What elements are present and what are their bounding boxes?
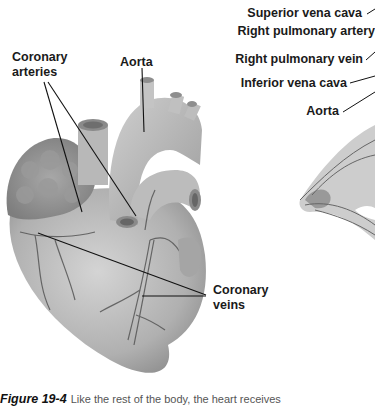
label-inferior-vena-cava: Inferior vena cava	[241, 76, 347, 91]
heart-anterior-view	[7, 77, 206, 373]
figure-caption: Figure 19-4Like the rest of the body, th…	[0, 392, 281, 406]
label-superior-vena-cava: Superior vena cava	[247, 6, 362, 21]
label-line: Coronary	[12, 50, 68, 65]
label-coronary-veins: Coronary veins	[213, 283, 269, 313]
label-right-pulmonary-artery: Right pulmonary artery	[237, 24, 375, 39]
label-coronary-arteries: Coronary arteries	[12, 50, 68, 80]
label-aorta-right: Aorta	[306, 104, 339, 119]
circulation-partial-view	[299, 125, 375, 240]
label-right-pulmonary-vein: Right pulmonary vein	[235, 52, 363, 67]
label-line: Coronary	[213, 283, 269, 298]
caption-text: Like the rest of the body, the heart rec…	[71, 393, 281, 405]
label-line: arteries	[12, 65, 68, 80]
label-line: veins	[213, 298, 269, 313]
label-aorta-left: Aorta	[120, 55, 153, 70]
figure-canvas: Coronary arteries Aorta Coronary veins S…	[0, 0, 375, 413]
figure-number: Figure 19-4	[0, 392, 67, 406]
